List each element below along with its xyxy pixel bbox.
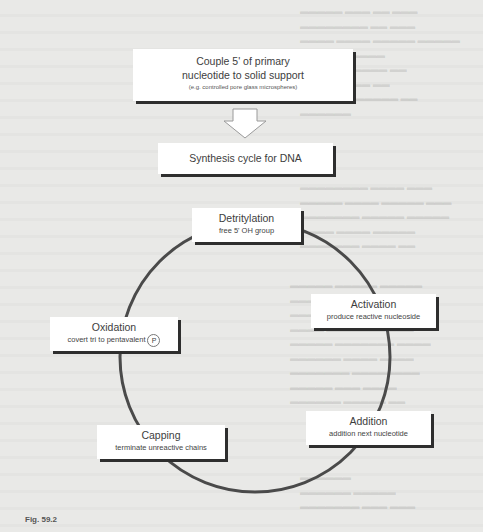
step-title: Capping (97, 428, 225, 442)
step-subtitle: addition next nucleotide (306, 428, 431, 439)
step-oxidation-box: Oxidation covert tri to pentavalentP (50, 317, 178, 351)
start-box-line3: (e.g. controlled pore glass microspheres… (133, 82, 353, 92)
step-subtitle: terminate unreactive chains (97, 442, 225, 453)
phosphorus-badge: P (147, 334, 160, 347)
step-title: Addition (306, 414, 431, 428)
start-box-line1: Couple 5' of primary (133, 54, 353, 68)
step-title: Activation (311, 297, 436, 311)
step-subtitle: produce reactive nucleoside (311, 311, 436, 322)
step-title: Detritylation (192, 211, 301, 225)
step-subtitle-row: covert tri to pentavalentP (50, 334, 178, 347)
step-subtitle: covert tri to pentavalent (68, 335, 146, 344)
step-title: Oxidation (50, 320, 178, 334)
start-box-line2: nucleotide to solid support (133, 68, 353, 82)
cycle-title-box: Synthesis cycle for DNA (158, 143, 333, 174)
step-addition-box: Addition addition next nucleotide (306, 411, 431, 445)
step-detritylation-box: Detritylation free 5' OH group (192, 208, 301, 242)
cycle-title: Synthesis cycle for DNA (158, 151, 333, 165)
start-box: Couple 5' of primary nucleotide to solid… (133, 49, 353, 101)
down-arrow-icon (224, 109, 266, 138)
step-activation-box: Activation produce reactive nucleoside (311, 294, 436, 328)
step-subtitle: free 5' OH group (192, 225, 301, 236)
step-capping-box: Capping terminate unreactive chains (97, 425, 225, 459)
figure-caption: Fig. 59.2 (25, 515, 57, 524)
